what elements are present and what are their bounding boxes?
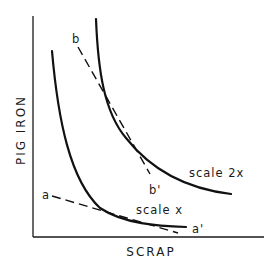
x-axis-label: SCRAP (126, 245, 175, 259)
isoquant-scale-x (52, 51, 186, 227)
label-b-prime: b' (149, 183, 161, 197)
label-scale-2x: scale 2x (189, 166, 244, 180)
label-a: a (42, 188, 50, 202)
label-a-prime: a' (192, 222, 204, 236)
y-axis-label: PIG IRON (14, 95, 28, 165)
label-b: b (72, 32, 80, 46)
price-line-bb (78, 47, 150, 174)
isoquant-diagram: PIG IRON SCRAP b b' a a' scale 2x scale … (0, 0, 271, 268)
label-scale-x: scale x (136, 203, 183, 217)
